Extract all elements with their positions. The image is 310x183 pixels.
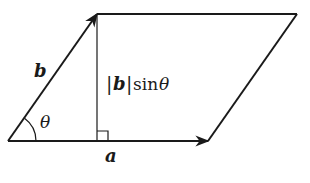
height-vec: b bbox=[113, 73, 126, 94]
right-side bbox=[208, 14, 297, 141]
vector-b-label: b bbox=[34, 60, 47, 81]
right-angle-icon bbox=[97, 131, 108, 141]
vector-b-arrow bbox=[8, 14, 97, 141]
angle-arc-icon bbox=[25, 118, 37, 141]
angle-label: θ bbox=[40, 112, 50, 132]
height-bar-left: | bbox=[106, 72, 112, 95]
height-bar-right: | bbox=[126, 72, 132, 95]
parallelogram-diagram: b θ a | b | sin θ bbox=[0, 0, 310, 183]
height-func: sin bbox=[133, 74, 158, 94]
height-angle: θ bbox=[159, 74, 169, 94]
vector-a-label: a bbox=[105, 145, 117, 166]
height-label: | b | sin θ bbox=[106, 72, 169, 95]
